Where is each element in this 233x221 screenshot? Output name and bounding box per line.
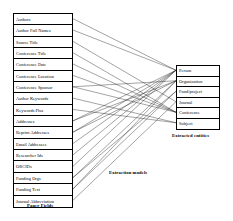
entity-organization[interactable]: Organization xyxy=(177,77,219,88)
extraction-models-caption: Extraction models xyxy=(109,170,147,175)
paper-field-addresses[interactable]: Addresses xyxy=(14,116,72,127)
edge-orcids-to-person xyxy=(73,70,176,166)
edge-funding-orgs-to-fund-project xyxy=(73,91,176,177)
paper-field-funding-text[interactable]: Funding Text xyxy=(14,184,72,195)
entity-person[interactable]: Person xyxy=(177,66,219,77)
edge-journal-abbreviation-to-journal xyxy=(73,102,176,201)
edge-source-title-to-journal xyxy=(73,41,176,101)
entity-fund-project[interactable]: Fund/project xyxy=(177,87,219,98)
edge-reprint-addresses-to-organization xyxy=(73,81,176,132)
paper-field-email-addresses[interactable]: Email Addresses xyxy=(14,139,72,150)
edge-conference-date-to-conference xyxy=(73,64,176,112)
paper-field-author-keywords[interactable]: Author Keywords xyxy=(14,93,72,104)
paper-field-conference-title[interactable]: Conference Title xyxy=(14,48,72,59)
edge-funding-orgs-to-organization xyxy=(73,81,176,178)
edge-author-keywords-to-subject xyxy=(73,98,176,123)
paper-field-orcids[interactable]: ORCIDs xyxy=(14,161,72,172)
edge-conference-sponsor-to-conference xyxy=(73,87,176,112)
paper-field-author-full-names[interactable]: Author Full Names xyxy=(14,25,72,36)
extracted-entities-list: PersonOrganizationFund/projectJournalCon… xyxy=(176,65,220,130)
entity-journal[interactable]: Journal xyxy=(177,98,219,109)
edge-keywords-plus-to-subject xyxy=(73,109,176,122)
edge-authors-to-person xyxy=(73,19,176,71)
paper-fields-list: AuthorsAuthor Full NamesSource TitleConf… xyxy=(13,13,73,208)
paper-field-conference-date[interactable]: Conference Date xyxy=(14,59,72,70)
edge-conference-sponsor-to-organization xyxy=(73,81,176,87)
diagram-canvas: AuthorsAuthor Full NamesSource TitleConf… xyxy=(0,0,233,221)
edge-author-full-names-to-person xyxy=(73,30,176,70)
paper-field-authors[interactable]: Authors xyxy=(14,14,72,25)
paper-field-researcher-ids[interactable]: Researcher Ids xyxy=(14,150,72,161)
extracted-entities-caption: Extracted entities xyxy=(172,133,209,138)
entity-subject[interactable]: Subject xyxy=(177,119,219,130)
edge-conference-title-to-conference xyxy=(73,53,176,113)
paper-field-reprint-addresses[interactable]: Reprint Addresses xyxy=(14,127,72,138)
entity-conference[interactable]: Conference xyxy=(177,108,219,119)
paper-field-conference-location[interactable]: Conference Location xyxy=(14,71,72,82)
paper-fields-caption: Paper Fields xyxy=(27,203,53,208)
paper-field-funding-orgs[interactable]: Funding Orgs xyxy=(14,173,72,184)
paper-field-conference-sponsor[interactable]: Conference Sponsor xyxy=(14,82,72,93)
edge-reprint-addresses-to-person xyxy=(73,70,176,132)
edge-addresses-to-organization xyxy=(73,81,176,121)
paper-field-keywords-plus[interactable]: Keywords Plus xyxy=(14,105,72,116)
edge-researcher-ids-to-person xyxy=(73,70,176,155)
paper-field-source-title[interactable]: Source Title xyxy=(14,37,72,48)
